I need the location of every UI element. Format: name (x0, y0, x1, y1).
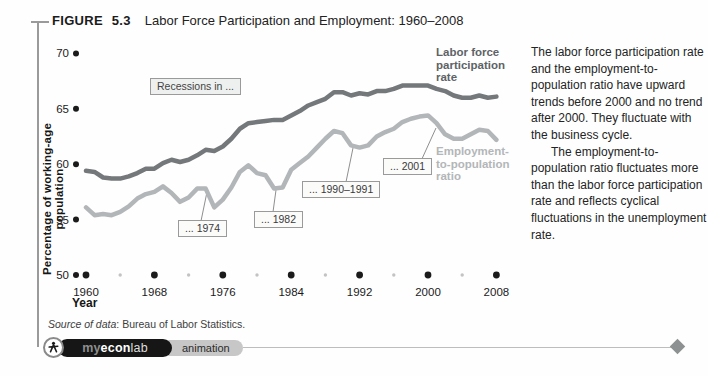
callout-1974: ... 1974 (178, 220, 227, 237)
lfpr-series-label: Labor force participation rate (436, 46, 505, 84)
x-axis-title: Year (72, 296, 97, 310)
source-note-prefix: Source of data (48, 318, 116, 330)
x-tick-dot (219, 272, 226, 279)
callout-leader-line (201, 192, 207, 221)
figure-bracket-horizontal (31, 21, 49, 23)
caption-text: The labor force participation rate and t… (531, 44, 708, 243)
source-note-text: : Bureau of Labor Statistics. (116, 318, 245, 330)
x-tick-dot (151, 272, 158, 279)
y-tick-label: 70 (56, 47, 69, 59)
x-tick-label: 1984 (278, 286, 304, 298)
caption-paragraph-1: The labor force participation rate and t… (531, 44, 708, 144)
brand-lab: lab (131, 341, 148, 355)
callout-1990-1991: ... 1990–1991 (302, 181, 380, 198)
callout-1982: ... 1982 (254, 211, 303, 228)
recessions-note: Recessions in ... (150, 78, 241, 95)
x-tick-label: 2008 (484, 286, 510, 298)
y-tick-label: 60 (56, 158, 69, 170)
callout-leader-line (421, 128, 436, 161)
x-tick-dot (83, 272, 90, 279)
x-minor-tick-dot (461, 273, 464, 276)
y-tick-dot (73, 106, 79, 112)
myeconlab-logo-icon[interactable] (43, 337, 64, 358)
brand-econ: econ (101, 341, 131, 355)
footer-rule (243, 347, 672, 348)
x-tick-label: 1976 (210, 286, 236, 298)
figure-title-row: FIGURE 5.3Labor Force Participation and … (52, 13, 464, 28)
lfpr-line (86, 86, 496, 179)
y-tick-dot (73, 161, 79, 167)
y-tick-label: 50 (56, 269, 69, 281)
y-tick-dot (73, 272, 79, 278)
figure-5-3: FIGURE 5.3Labor Force Participation and … (0, 0, 708, 376)
callout-leader-line (273, 190, 276, 212)
brand-my: my (82, 341, 100, 355)
callout-leader-line (346, 148, 353, 182)
animation-label[interactable]: animation (182, 342, 230, 354)
x-tick-label: 1992 (347, 286, 373, 298)
footer-diamond-icon (670, 339, 686, 355)
callout-2001: ... 2001 (383, 158, 432, 175)
x-tick-label: 2000 (415, 286, 441, 298)
x-tick-dot (356, 272, 363, 279)
y-tick-dot (73, 50, 79, 56)
epop-series-label: Employment- to-population ratio (436, 145, 509, 183)
caption-paragraph-2: The employment-to-population ratio fluct… (531, 144, 708, 244)
x-minor-tick-dot (392, 273, 395, 276)
y-tick-dot (73, 217, 79, 223)
x-minor-tick-dot (187, 273, 190, 276)
x-tick-dot (425, 272, 432, 279)
y-tick-label: 65 (56, 103, 69, 115)
x-tick-label: 1968 (142, 286, 168, 298)
x-minor-tick-dot (119, 273, 122, 276)
x-minor-tick-dot (324, 273, 327, 276)
source-note: Source of data: Bureau of Labor Statisti… (48, 318, 245, 330)
x-minor-tick-dot (255, 273, 258, 276)
person-icon (47, 341, 60, 354)
x-tick-dot (288, 272, 295, 279)
figure-number-label: FIGURE 5.3 (52, 13, 131, 28)
figure-bracket-vertical (37, 21, 39, 347)
myeconlab-pill[interactable]: myeconlab (58, 339, 172, 357)
x-tick-dot (493, 272, 500, 279)
y-tick-label: 55 (56, 214, 69, 226)
figure-title: Labor Force Participation and Employment… (145, 13, 464, 28)
